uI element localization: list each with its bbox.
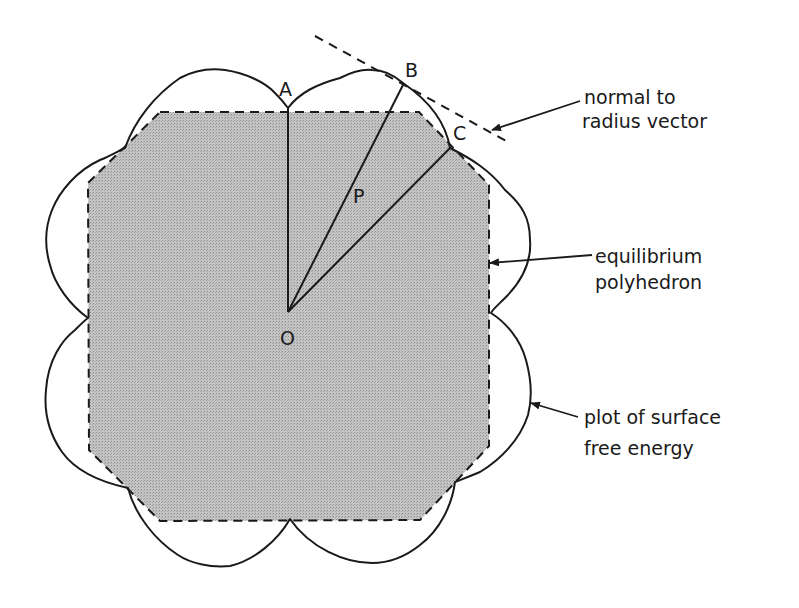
label-point-C: C	[453, 122, 466, 144]
label-point-O: O	[280, 327, 295, 349]
arrow-normal	[492, 101, 580, 130]
annotation-polyhedron-line2: polyhedron	[595, 271, 702, 293]
annotation-polyhedron-line1: equilibrium	[595, 245, 702, 267]
annotation-energy-line1: plot of surface	[584, 406, 721, 428]
arrow-surface-energy	[531, 403, 578, 417]
wulff-construction-diagram: A B C P O normal to radius vector equili…	[0, 0, 799, 608]
annotation-normal-line1: normal to	[584, 86, 676, 108]
label-point-B: B	[405, 59, 418, 81]
label-point-A: A	[279, 78, 292, 100]
arrow-polyhedron	[490, 255, 592, 263]
label-point-P: P	[353, 185, 364, 207]
annotation-energy-line2: free energy	[584, 437, 694, 459]
annotation-normal-line2: radius vector	[582, 110, 707, 132]
